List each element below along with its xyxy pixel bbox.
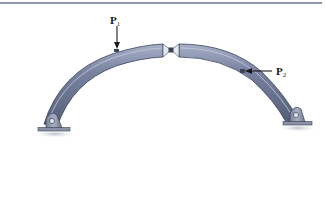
load-p1-arrow [114, 26, 120, 52]
load-p1-label: P1 [110, 15, 120, 28]
right-arch-segment [179, 44, 298, 122]
left-arch-segment [44, 44, 163, 127]
left-pin-support [33, 113, 77, 138]
load-p2-label: P2 [276, 66, 286, 79]
arch-diagram [0, 0, 326, 209]
crown-hinge [163, 44, 179, 57]
